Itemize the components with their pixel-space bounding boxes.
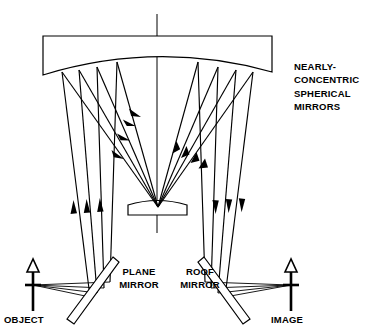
roof-mirror-label: ROOF MIRROR — [175, 265, 225, 291]
object-label: OBJECT — [4, 314, 44, 325]
mirrors-caption: NEARLY- CONCENTRIC SPHERICAL MIRRORS — [294, 60, 359, 114]
plane-mirror-label: PLANE MIRROR — [113, 265, 165, 291]
optical-diagram: NEARLY- CONCENTRIC SPHERICAL MIRRORS PLA… — [0, 0, 375, 334]
image-arrow — [283, 259, 299, 311]
small-spherical-mirror — [128, 201, 187, 216]
object-arrow — [25, 259, 41, 311]
arrowheads-upward — [71, 198, 104, 214]
arrowheads-downward — [212, 198, 245, 214]
image-label: IMAGE — [271, 314, 303, 325]
arrowheads-up-right — [173, 141, 209, 169]
